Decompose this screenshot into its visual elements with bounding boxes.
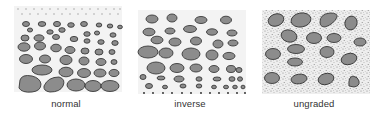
- normal-grading-illustration: [4, 0, 128, 96]
- panel-ungraded: ungraded: [252, 0, 376, 119]
- label-ungraded: ungraded: [252, 98, 376, 109]
- panel-normal-grading: normal: [4, 0, 128, 119]
- inverse-grading-illustration: [128, 0, 252, 96]
- label-normal: normal: [4, 98, 128, 109]
- label-inverse: inverse: [128, 98, 252, 109]
- panel-inverse-grading: inverse: [128, 0, 252, 119]
- ungraded-illustration: [252, 0, 376, 96]
